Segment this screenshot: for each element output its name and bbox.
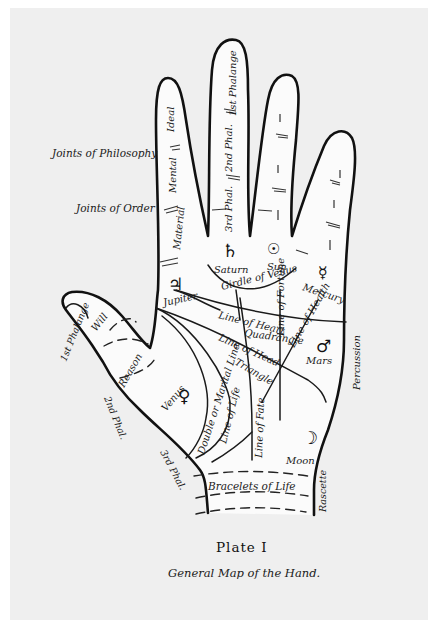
thumb-second-phal-label: 2nd Phal. xyxy=(102,394,130,441)
mars-label: Mars xyxy=(305,355,332,366)
sun-symbol-icon: ☉ xyxy=(267,240,280,258)
moon-symbol-icon: ☽ xyxy=(302,427,318,448)
percussion-label: Percussion xyxy=(351,335,362,391)
jupiter-symbol-icon: ♃ xyxy=(168,274,183,294)
middle-second-phal-label: 2nd Phal. xyxy=(223,124,234,173)
saturn-label: Saturn xyxy=(214,264,249,275)
middle-third-phal-label: 3rd Phal. xyxy=(223,186,234,232)
fortune-line-label: Line of Fortune xyxy=(275,258,286,337)
hand-map-diagram: Joints of Philosophy Joints of Order Ide… xyxy=(0,0,440,631)
moon-label: Moon xyxy=(285,455,315,466)
joints-of-order-label: Joints of Order xyxy=(74,202,156,214)
saturn-symbol-icon: ♄ xyxy=(222,240,238,261)
plate-title: Plate I xyxy=(216,539,268,555)
index-mental-label: Mental xyxy=(167,157,178,194)
index-ideal-label: Ideal xyxy=(165,107,176,133)
fate-line-label: Line of Fate xyxy=(253,397,266,459)
mercury-symbol-icon: ☿ xyxy=(318,263,328,282)
bracelets-of-life-label: Bracelets of Life xyxy=(207,480,296,492)
plate-subtitle: General Map of the Hand. xyxy=(168,566,320,580)
middle-first-phalange-label: 1st Phalange xyxy=(227,50,238,116)
mars-symbol-icon: ♂ xyxy=(316,336,331,356)
joints-of-philosophy-label: Joints of Philosophy xyxy=(50,147,158,159)
thumb-third-phal-label: 3rd Phal. xyxy=(158,448,188,492)
rascette-label: Rascette xyxy=(317,470,328,513)
